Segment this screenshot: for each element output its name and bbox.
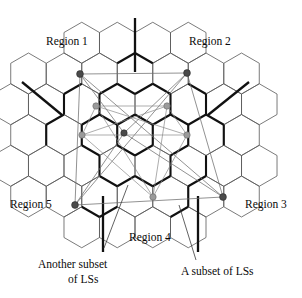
region-5-label: Region 5 — [10, 198, 52, 211]
ls-dark-5 — [72, 202, 79, 209]
region-4-label: Region 4 — [129, 231, 171, 244]
ls-dark-1 — [77, 71, 84, 78]
ls-gray-1 — [93, 103, 99, 109]
ls-gray-5 — [150, 194, 156, 200]
figure-canvas: Region 1Region 2Region 3Region 4Region 5… — [0, 0, 302, 298]
hex-region-figure: Region 1Region 2Region 3Region 4Region 5… — [0, 0, 302, 298]
another-subset-of-ls-line1: Another subset — [38, 258, 108, 270]
ls-dark-2 — [184, 70, 191, 77]
region-3-label: Region 3 — [245, 198, 287, 211]
a-subset-of-ls-line1: A subset of LSs — [181, 265, 254, 277]
ls-gray-2 — [164, 103, 170, 109]
region-1-label: Region 1 — [46, 35, 88, 48]
region-2-label: Region 2 — [189, 35, 231, 48]
another-subset-of-ls-line2: of LSs — [68, 273, 99, 285]
ls-gray-3 — [184, 132, 190, 138]
ls-dark-4 — [121, 130, 127, 136]
ls-gray-4 — [79, 132, 85, 138]
ls-dark-3 — [220, 194, 227, 201]
